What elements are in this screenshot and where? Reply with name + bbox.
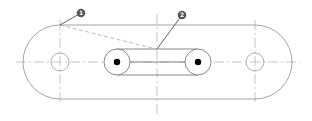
drawing-svg: 1 2 <box>0 0 312 121</box>
hidden-line-dashed <box>60 25 156 49</box>
pin-left-icon <box>114 59 120 65</box>
centerlines <box>16 14 300 117</box>
technical-drawing: 1 2 <box>0 0 312 121</box>
callout-2-label: 2 <box>180 11 184 18</box>
callout-1: 1 <box>60 9 85 25</box>
callout-2-leader <box>157 15 182 49</box>
callout-2: 2 <box>157 11 186 49</box>
callout-1-label: 1 <box>79 9 83 16</box>
pin-right-icon <box>195 59 201 65</box>
